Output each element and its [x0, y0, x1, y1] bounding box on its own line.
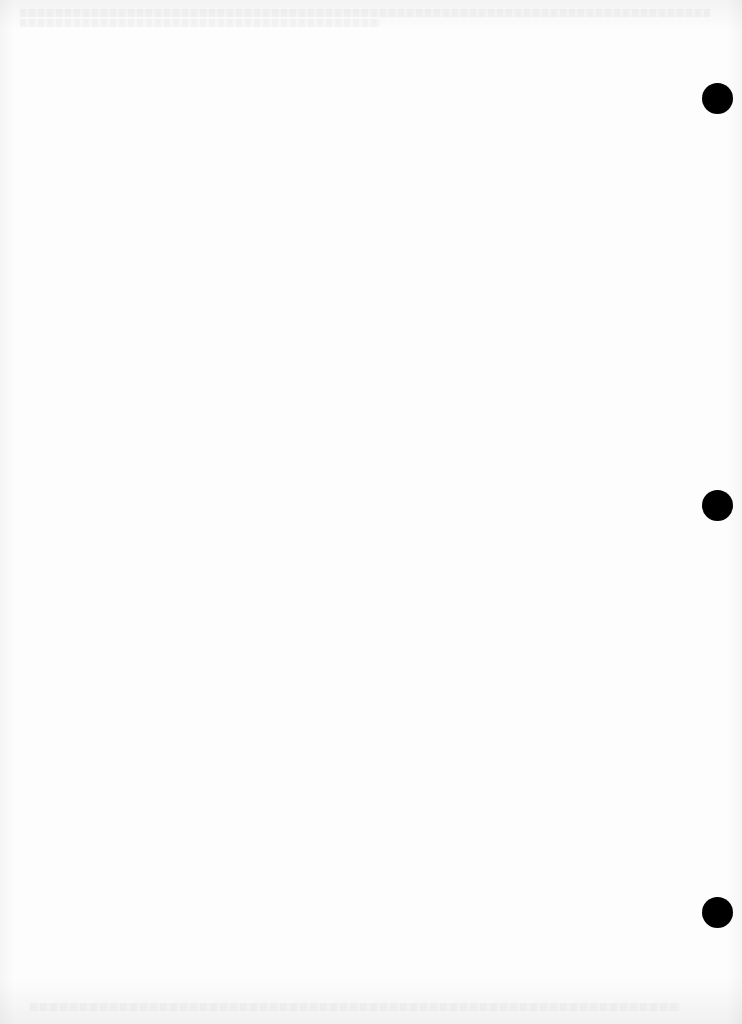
punch-hole-bottom	[702, 897, 733, 928]
punch-hole-top	[702, 83, 733, 114]
show-through-text-bottom	[30, 1003, 680, 1011]
scanned-page	[0, 0, 742, 1024]
punch-hole-middle	[702, 490, 733, 521]
show-through-text-top-line-2	[20, 19, 380, 27]
show-through-text-top	[20, 9, 710, 17]
